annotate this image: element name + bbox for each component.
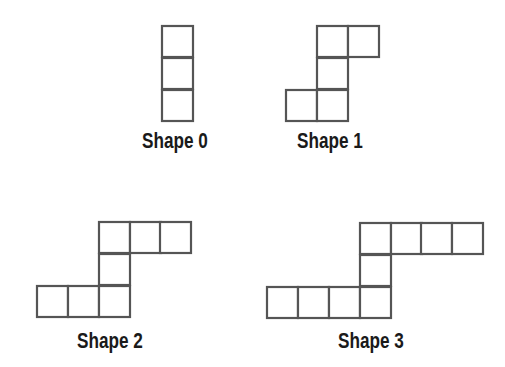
- square-cell: [68, 286, 99, 317]
- square-cell: [160, 222, 191, 253]
- square-cell: [317, 26, 348, 57]
- pattern-diagram: [0, 0, 505, 367]
- square-cell: [162, 90, 193, 121]
- square-cell: [37, 286, 68, 317]
- square-cell: [421, 223, 452, 254]
- shape-2-label: Shape 2: [77, 330, 143, 352]
- shape-3-label: Shape 3: [338, 330, 404, 352]
- square-cell: [99, 222, 130, 253]
- shape-2-figure: [37, 222, 191, 317]
- square-cell: [130, 222, 161, 253]
- square-cell: [317, 90, 348, 121]
- square-cell: [348, 26, 379, 57]
- square-cell: [162, 26, 193, 57]
- square-cell: [99, 254, 130, 285]
- square-cell: [452, 223, 483, 254]
- square-cell: [286, 90, 317, 121]
- square-cell: [267, 287, 298, 318]
- square-cell: [360, 255, 391, 286]
- square-cell: [360, 287, 391, 318]
- square-cell: [162, 58, 193, 89]
- shape-0-label: Shape 0: [142, 130, 208, 152]
- shape-3-figure: [267, 223, 483, 318]
- square-cell: [298, 287, 329, 318]
- square-cell: [391, 223, 422, 254]
- square-cell: [317, 58, 348, 89]
- square-cell: [329, 287, 360, 318]
- shape-0-figure: [162, 26, 193, 121]
- shape-1-figure: [286, 26, 379, 121]
- square-cell: [360, 223, 391, 254]
- square-cell: [99, 286, 130, 317]
- shape-1-label: Shape 1: [297, 130, 363, 152]
